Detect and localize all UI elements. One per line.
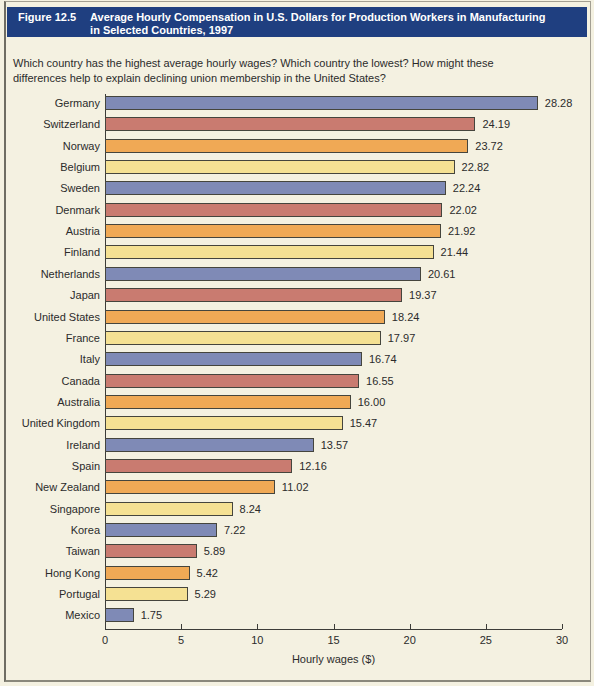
bar-row: United States18.24 (0, 310, 594, 324)
country-label: Netherlands (0, 267, 100, 281)
wage-bar (105, 310, 385, 324)
bar-row: Japan19.37 (0, 288, 594, 302)
value-label: 7.22 (224, 523, 245, 537)
country-label: Germany (0, 96, 100, 110)
value-label: 28.28 (545, 96, 573, 110)
wage-bar (105, 117, 475, 131)
wage-bar (105, 544, 197, 558)
bar-row: Netherlands20.61 (0, 267, 594, 281)
value-label: 22.82 (462, 160, 490, 174)
country-label: Japan (0, 288, 100, 302)
country-label: Taiwan (0, 544, 100, 558)
x-tick-label: 25 (471, 634, 501, 646)
wage-bar (105, 523, 217, 537)
value-label: 12.16 (299, 459, 327, 473)
country-label: Spain (0, 459, 100, 473)
wage-bar (105, 566, 190, 580)
country-label: Hong Kong (0, 566, 100, 580)
country-label: Sweden (0, 181, 100, 195)
country-label: United Kingdom (0, 416, 100, 430)
x-axis-title: Hourly wages ($) (105, 653, 562, 665)
country-label: Switzerland (0, 117, 100, 131)
value-label: 5.42 (197, 566, 218, 580)
value-label: 5.29 (195, 587, 216, 601)
value-label: 19.37 (409, 288, 437, 302)
wage-bar (105, 480, 275, 494)
figure-12-5: Figure 12.5 Average Hourly Compensation … (0, 0, 594, 686)
bar-row: United Kingdom15.47 (0, 416, 594, 430)
country-label: Norway (0, 139, 100, 153)
bar-row: Finland21.44 (0, 245, 594, 259)
value-label: 13.57 (321, 438, 349, 452)
x-tick-label: 20 (395, 634, 425, 646)
bar-row: Austria21.92 (0, 224, 594, 238)
value-label: 23.72 (475, 139, 503, 153)
bar-row: Canada16.55 (0, 374, 594, 388)
wage-bar (105, 160, 455, 174)
value-label: 16.55 (366, 374, 394, 388)
country-label: Singapore (0, 502, 100, 516)
wage-bar (105, 374, 359, 388)
value-label: 11.02 (282, 480, 309, 494)
bar-row: Germany28.28 (0, 96, 594, 110)
value-label: 24.19 (482, 117, 510, 131)
x-axis-line (105, 629, 562, 630)
wage-bar (105, 139, 468, 153)
value-label: 15.47 (350, 416, 378, 430)
country-label: Belgium (0, 160, 100, 174)
country-label: France (0, 331, 100, 345)
bar-row: Spain12.16 (0, 459, 594, 473)
value-label: 20.61 (428, 267, 456, 281)
wage-bar (105, 224, 441, 238)
x-tick-label: 5 (166, 634, 196, 646)
value-label: 21.92 (448, 224, 476, 238)
wage-bar (105, 438, 314, 452)
bar-row: Hong Kong5.42 (0, 566, 594, 580)
country-label: Denmark (0, 203, 100, 217)
x-tick (257, 624, 258, 629)
country-label: Australia (0, 395, 100, 409)
value-label: 21.44 (441, 245, 469, 259)
country-label: Austria (0, 224, 100, 238)
wage-bar (105, 288, 402, 302)
value-label: 8.24 (240, 502, 261, 516)
bar-row: Portugal5.29 (0, 587, 594, 601)
bar-row: Singapore8.24 (0, 502, 594, 516)
wage-bar (105, 459, 292, 473)
x-tick (486, 624, 487, 629)
country-label: Ireland (0, 438, 100, 452)
value-label: 17.97 (388, 331, 416, 345)
value-label: 22.02 (449, 203, 477, 217)
bar-row: France17.97 (0, 331, 594, 345)
x-tick (410, 624, 411, 629)
bar-row: Mexico1.75 (0, 608, 594, 622)
bar-row: Switzerland24.19 (0, 117, 594, 131)
bar-row: Sweden22.24 (0, 181, 594, 195)
x-tick-label: 10 (242, 634, 272, 646)
value-label: 5.89 (204, 544, 225, 558)
wage-bar (105, 331, 381, 345)
value-label: 22.24 (453, 181, 481, 195)
value-label: 16.74 (369, 352, 397, 366)
wage-bar (105, 267, 421, 281)
wage-bar (105, 181, 446, 195)
bar-row: Belgium22.82 (0, 160, 594, 174)
x-tick-label: 15 (319, 634, 349, 646)
bar-chart: Germany28.28Switzerland24.19Norway23.72B… (0, 0, 594, 686)
value-label: 1.75 (141, 608, 162, 622)
x-tick (562, 624, 563, 629)
x-tick (334, 624, 335, 629)
wage-bar (105, 608, 134, 622)
country-label: Mexico (0, 608, 100, 622)
country-label: United States (0, 310, 100, 324)
wage-bar (105, 352, 362, 366)
country-label: Portugal (0, 587, 100, 601)
wage-bar (105, 203, 442, 217)
wage-bar (105, 502, 233, 516)
country-label: Canada (0, 374, 100, 388)
x-tick-label: 0 (90, 634, 120, 646)
bar-row: Ireland13.57 (0, 438, 594, 452)
wage-bar (105, 245, 434, 259)
wage-bar (105, 416, 343, 430)
bar-row: New Zealand11.02 (0, 480, 594, 494)
